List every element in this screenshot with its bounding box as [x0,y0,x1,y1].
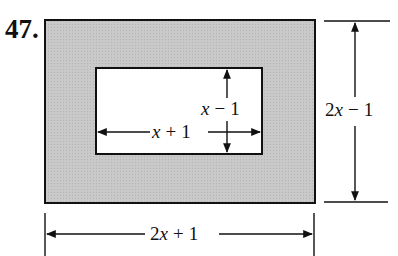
outer-width-label: 2x+1 [150,223,198,244]
inner-width-label: x+1 [151,121,191,142]
inner-height-label: x−1 [200,98,240,119]
rectangle-figure: 47. x−1 x+1 2x−1 2x+1 [0,0,398,256]
problem-number: 47. [5,14,39,44]
outer-height-label: 2x−1 [325,99,373,120]
